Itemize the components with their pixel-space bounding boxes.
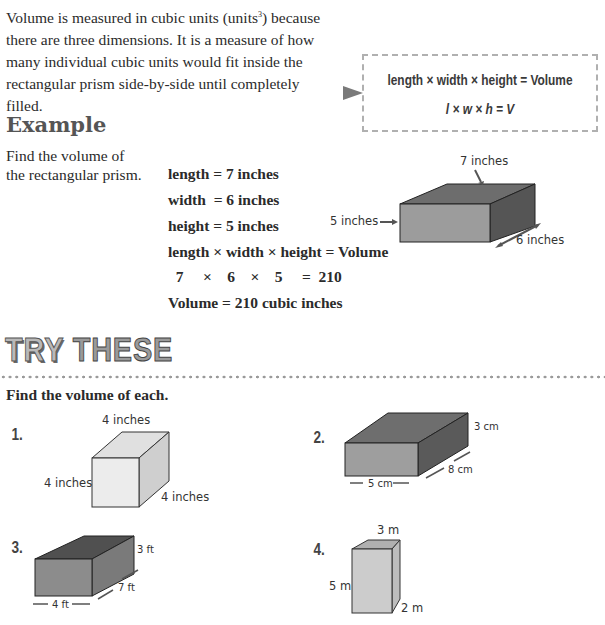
label-length: 7 inches xyxy=(460,154,508,168)
label-right: 4 inches xyxy=(161,490,209,504)
label-top: 3 m xyxy=(377,523,399,537)
label-left: 4 inches xyxy=(44,476,92,490)
label-left: 5 m xyxy=(329,579,351,593)
prism-side xyxy=(392,540,400,613)
try-these-heading: TRY THESE xyxy=(5,330,173,369)
prism-front xyxy=(345,443,418,476)
try-these-part1: TRY xyxy=(5,330,64,368)
label-top: 4 inches xyxy=(102,413,150,427)
cube-front xyxy=(92,458,139,507)
label-width: 6 inches xyxy=(516,233,564,247)
label-height: 3 cm xyxy=(474,421,499,432)
example-prompt: Find the volume of the rectangular prism… xyxy=(6,146,146,184)
label-depth: 2 m xyxy=(401,601,423,615)
calc-line-width: width = 6 inches xyxy=(168,191,279,209)
calc-line-numbers: 7 × 6 × 5 = 210 xyxy=(168,268,342,286)
formula-box: length × width × height = Volume l × w ×… xyxy=(362,54,598,132)
calc-line-height: height = 5 inches xyxy=(168,217,279,235)
arrow-right-icon xyxy=(343,86,363,100)
label-height: 5 inches xyxy=(330,214,378,228)
formula-symbols: l × w × h = V xyxy=(385,101,575,117)
prism-front xyxy=(35,559,92,596)
label-length: 5 cm xyxy=(368,478,393,489)
example-heading: Example xyxy=(6,112,106,137)
intro-paragraph: Volume is measured in cubic units (units… xyxy=(6,4,336,117)
prism-front xyxy=(400,204,490,242)
arrow-length-icon xyxy=(475,170,481,182)
arrowhead xyxy=(392,219,398,225)
problem-3-figure: 3 ft 7 ft 4 ft xyxy=(0,515,220,625)
problem-2-figure: 3 cm 8 cm 5 cm xyxy=(300,405,540,515)
problem-4-figure: 3 m 5 m 2 m xyxy=(300,515,500,625)
dotted-divider xyxy=(0,375,605,379)
calc-line-result: Volume = 210 cubic inches xyxy=(168,294,342,312)
label-depth: 7 ft xyxy=(118,582,135,593)
instructions: Find the volume of each. xyxy=(6,386,168,404)
calc-line-length: length = 7 inches xyxy=(168,165,279,183)
label-length: 4 ft xyxy=(52,599,69,610)
label-depth: 8 cm xyxy=(448,464,473,475)
label-height: 3 ft xyxy=(137,544,154,555)
formula-words: length × width × height = Volume xyxy=(385,72,575,88)
prism-front xyxy=(352,549,392,613)
try-these-part2: THESE xyxy=(73,330,174,368)
intro-text: Volume is measured in cubic units (units xyxy=(6,9,258,26)
example-prism-figure: 7 inches 5 inches 6 inches xyxy=(320,145,605,255)
problem-1-figure: 4 inches 4 inches 4 inches xyxy=(0,405,240,515)
